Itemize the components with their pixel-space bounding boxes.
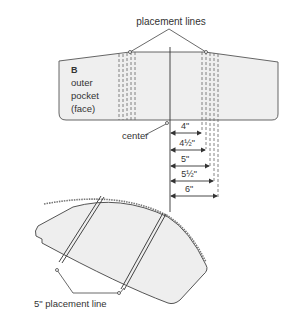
- piece-name-line-2: pocket: [71, 90, 99, 101]
- measurement-4-5in: 4½": [179, 138, 195, 148]
- placement-lines-callout: [129, 29, 208, 54]
- measurement-4in: 4": [181, 121, 189, 131]
- piece-name-line-1: outer: [71, 77, 93, 88]
- top-figure: placement lines B outer pocket (face) ce…: [59, 16, 278, 212]
- bottom-figure: 5" placement line: [34, 196, 207, 309]
- center-label: center: [122, 130, 148, 141]
- placement-lines-label: placement lines: [136, 16, 205, 27]
- measurement-6in: 6": [185, 184, 193, 194]
- bottom-placement-label: 5" placement line: [34, 298, 107, 309]
- piece-name-line-3: (face): [71, 103, 95, 114]
- measurement-5-5in: 5½": [181, 169, 197, 179]
- pocket-placement-diagram: placement lines B outer pocket (face) ce…: [0, 0, 290, 324]
- piece-letter: B: [71, 65, 78, 75]
- measurement-5in: 5": [181, 154, 189, 164]
